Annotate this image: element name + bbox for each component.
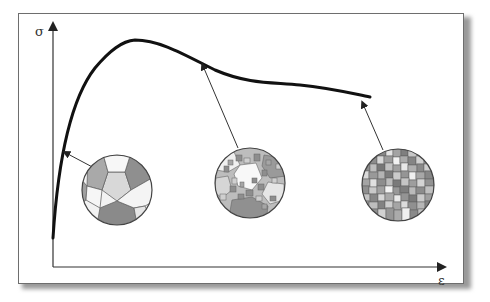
arrow-to-end bbox=[363, 104, 383, 150]
stress-strain-plot: σ ε bbox=[0, 0, 490, 302]
pointer-arrows bbox=[66, 66, 383, 170]
x-axis-label: ε bbox=[438, 273, 445, 288]
coarse-grain-inset bbox=[80, 153, 156, 230]
y-axis-label: σ bbox=[35, 24, 44, 39]
diagram-stage: σ ε bbox=[0, 0, 490, 302]
arrow-to-mid bbox=[203, 66, 238, 148]
